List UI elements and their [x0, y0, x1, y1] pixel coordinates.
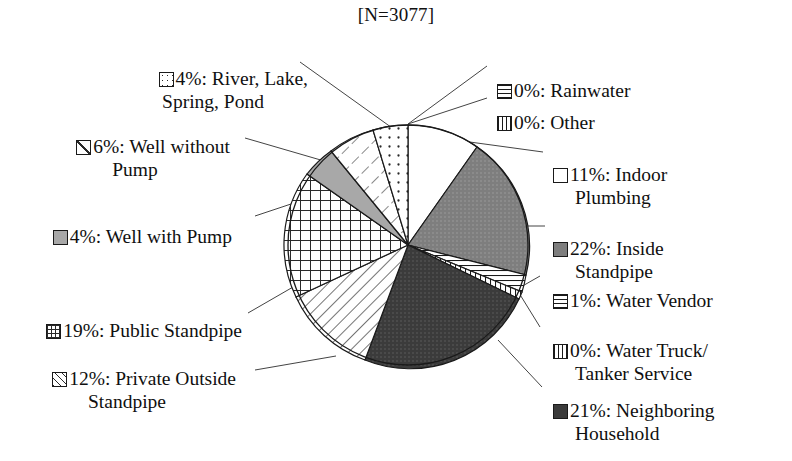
swatch-gray-medium-icon: [553, 242, 568, 257]
swatch-diagonal-sparse-icon: [76, 140, 91, 155]
slice-label-line1: 1%: Water Vendor: [570, 290, 713, 311]
slice-label-line2: Pump: [40, 158, 230, 181]
slice-label-line1: 4%: River, Lake,: [176, 68, 308, 89]
slice-label-line1: 0%: Other: [514, 112, 595, 133]
slice-label-line1: 22%: Inside: [570, 238, 664, 259]
swatch-vertical-icon: [497, 116, 512, 131]
slice-label-line1: 4%: Well with Pump: [70, 226, 232, 247]
swatch-gray-dark-icon: [553, 404, 568, 419]
slice-label-water-vendor: 1%: Water Vendor: [553, 266, 792, 312]
swatch-vertical-icon: [553, 344, 568, 359]
swatch-dotted-icon: [159, 72, 174, 87]
pie-slices: [284, 125, 530, 369]
slice-label-private-outside-standpipe: 12%: Private Outside Standpipe: [18, 344, 236, 436]
pie-chart-figure: [N=3077]: [0, 0, 792, 461]
slice-label-line1: 12%: Private Outside: [69, 368, 236, 389]
slice-label-line1: 6%: Well without: [93, 136, 230, 157]
swatch-crosshatch-icon: [46, 324, 61, 339]
slice-label-line1: 11%: Indoor: [570, 164, 667, 185]
slice-label-line2: Household: [553, 422, 792, 445]
slice-label-public-standpipe: 19%: Public Standpipe: [12, 296, 242, 342]
slice-label-well-without-pump: 6%: Well without Pump: [40, 112, 230, 204]
slice-label-line1: 0%: Water Truck/: [570, 340, 708, 361]
slice-label-neighboring-household: 21%: Neighboring Household: [553, 376, 792, 461]
slice-label-line2: Plumbing: [553, 186, 783, 209]
swatch-diagonal-icon: [52, 372, 67, 387]
slice-label-line1: 19%: Public Standpipe: [63, 320, 242, 341]
swatch-white-icon: [553, 168, 568, 183]
slice-label-well-with-pump: 4%: Well with Pump: [32, 202, 232, 248]
slice-label-other: 0%: Other: [497, 88, 757, 134]
swatch-gray-light-icon: [53, 230, 68, 245]
slice-label-line1: 21%: Neighboring: [570, 400, 715, 421]
swatch-horizontal-icon: [553, 294, 568, 309]
slice-label-line2: Spring, Pond: [118, 90, 308, 113]
slice-label-line2: Standpipe: [18, 390, 236, 413]
